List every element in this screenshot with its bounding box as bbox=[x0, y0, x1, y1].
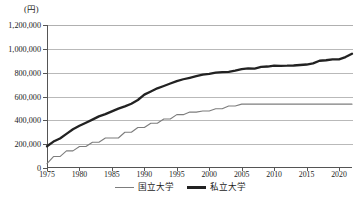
legend-entry[interactable]: 国立大学 bbox=[115, 183, 174, 192]
y-axis-label: 400,000 bbox=[0, 116, 41, 125]
y-axis-tick bbox=[43, 120, 47, 121]
legend-label: 国立大学 bbox=[138, 183, 174, 192]
x-axis-tick bbox=[242, 168, 243, 171]
series-line bbox=[47, 104, 352, 164]
y-axis-label: 600,000 bbox=[0, 92, 41, 101]
x-axis-label: 2000 bbox=[201, 170, 217, 179]
x-axis-tick bbox=[339, 168, 340, 171]
y-axis-tick bbox=[43, 25, 47, 26]
x-axis-tick bbox=[177, 168, 178, 171]
x-axis-tick bbox=[274, 168, 275, 171]
x-axis-label: 1985 bbox=[104, 170, 120, 179]
x-axis-label: 2005 bbox=[234, 170, 250, 179]
y-axis-label: 1,000,000 bbox=[0, 44, 41, 53]
x-axis-label: 2015 bbox=[299, 170, 315, 179]
y-axis-label: 1,200,000 bbox=[0, 21, 41, 30]
y-axis-label: 0 bbox=[0, 164, 41, 173]
tuition-line-chart: (円) 国立大学私立大学 1,200,0001,000,000800,00060… bbox=[0, 0, 361, 203]
y-axis-label: 800,000 bbox=[0, 68, 41, 77]
chart-legend: 国立大学私立大学 bbox=[0, 183, 361, 192]
y-axis-label: 200,000 bbox=[0, 140, 41, 149]
x-axis-tick bbox=[144, 168, 145, 171]
legend-label: 私立大学 bbox=[210, 183, 246, 192]
x-axis-label: 2010 bbox=[266, 170, 282, 179]
x-axis-tick bbox=[79, 168, 80, 171]
legend-entry[interactable]: 私立大学 bbox=[187, 183, 246, 192]
y-axis-tick bbox=[43, 97, 47, 98]
y-axis-tick bbox=[43, 49, 47, 50]
x-axis-tick bbox=[209, 168, 210, 171]
x-axis-tick bbox=[307, 168, 308, 171]
x-axis-label: 1990 bbox=[137, 170, 153, 179]
x-axis-label: 1980 bbox=[72, 170, 88, 179]
legend-line-icon bbox=[187, 186, 206, 189]
x-axis-label: 2020 bbox=[331, 170, 347, 179]
series-line bbox=[47, 54, 352, 147]
y-axis-tick bbox=[43, 73, 47, 74]
x-axis-tick bbox=[112, 168, 113, 171]
x-axis-tick bbox=[47, 168, 48, 171]
x-axis-label: 1975 bbox=[39, 170, 55, 179]
y-axis-tick bbox=[43, 144, 47, 145]
x-axis-label: 1995 bbox=[169, 170, 185, 179]
legend-line-icon bbox=[115, 187, 134, 188]
